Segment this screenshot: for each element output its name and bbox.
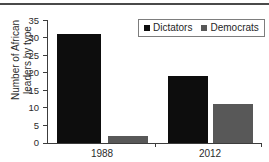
bar-1988-democrats bbox=[108, 136, 148, 143]
legend-entry-dictators: Dictators bbox=[144, 23, 192, 33]
x-tick-divider bbox=[155, 143, 156, 147]
legend-swatch-democrats-icon bbox=[201, 25, 207, 31]
y-tick-label-25: 25 bbox=[19, 51, 39, 60]
bar-2012-democrats bbox=[213, 104, 253, 143]
bar-2012-dictators bbox=[168, 76, 208, 143]
y-axis-line bbox=[47, 20, 48, 144]
chart-figure: Number of Africanleaders by type 35 30 2… bbox=[0, 0, 269, 162]
y-tick-label-30: 30 bbox=[19, 33, 39, 42]
legend-label-dictators: Dictators bbox=[153, 23, 192, 33]
chart-legend: Dictators Democrats bbox=[138, 19, 265, 37]
legend-entry-democrats: Democrats bbox=[201, 23, 258, 33]
legend-swatch-dictators-icon bbox=[144, 25, 150, 31]
y-tick-label-10: 10 bbox=[19, 103, 39, 112]
x-tick-end bbox=[261, 143, 262, 147]
bar-1988-dictators bbox=[57, 34, 101, 143]
y-tick-label-15: 15 bbox=[19, 86, 39, 95]
x-tick-label-1988: 1988 bbox=[77, 148, 127, 159]
y-tick-label-0: 0 bbox=[19, 138, 39, 147]
y-tick-label-5: 5 bbox=[19, 121, 39, 130]
legend-label-democrats: Democrats bbox=[210, 23, 258, 33]
x-tick-label-2012: 2012 bbox=[185, 148, 235, 159]
plot-area: Number of Africanleaders by type 35 30 2… bbox=[0, 0, 269, 162]
y-tick-label-35: 35 bbox=[19, 16, 39, 25]
y-tick-label-20: 20 bbox=[19, 68, 39, 77]
